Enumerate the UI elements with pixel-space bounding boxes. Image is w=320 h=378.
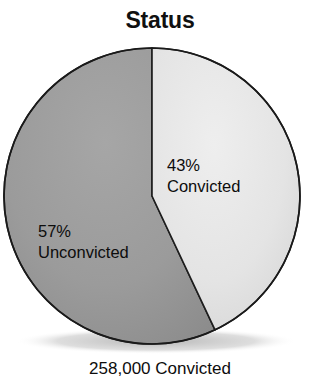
pie-label-convicted: 43% Convicted <box>167 155 240 197</box>
chart-caption-clip: 258,000 Convicted <box>0 362 320 378</box>
pie-label-convicted-category: Convicted <box>167 176 240 197</box>
chart-caption: 258,000 Convicted <box>0 362 320 378</box>
pie-label-unconvicted: 57% Unconvicted <box>38 221 129 263</box>
pie-chart-graphic <box>0 0 320 378</box>
pie-chart-figure: Status <box>0 0 320 378</box>
pie-label-convicted-percent: 43% <box>167 155 240 176</box>
pie-label-unconvicted-percent: 57% <box>38 221 129 242</box>
pie-label-unconvicted-category: Unconvicted <box>38 242 129 263</box>
